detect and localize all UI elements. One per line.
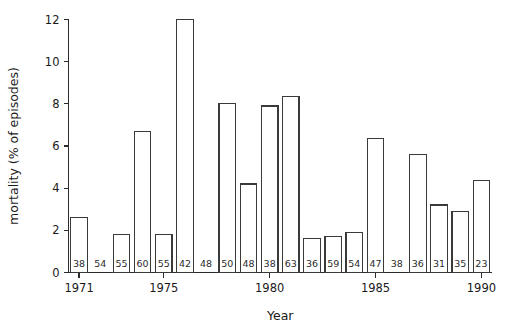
bar-count-label: 38	[73, 258, 85, 269]
bar-count-label: 54	[348, 258, 360, 269]
bar-count-label: 23	[475, 258, 487, 269]
bar-count-label: 48	[200, 258, 212, 269]
y-axis-title: mortality (% of episodes)	[6, 67, 21, 225]
bar	[177, 20, 194, 273]
chart-figure: 0246810121971197519801985199038545560554…	[0, 0, 513, 336]
x-axis-tick-label: 1975	[149, 281, 178, 295]
x-axis-title: Year	[266, 308, 294, 323]
bar	[261, 106, 278, 273]
x-axis-tick-label: 1971	[64, 281, 93, 295]
bar-count-label: 63	[285, 258, 297, 269]
bar-count-label: 36	[412, 258, 424, 269]
bar-count-label: 38	[264, 258, 276, 269]
bar	[367, 139, 384, 273]
bar-count-label: 54	[94, 258, 106, 269]
bar	[134, 131, 151, 272]
bar-chart-svg: 0246810121971197519801985199038545560554…	[0, 0, 513, 336]
bar-count-label: 35	[454, 258, 466, 269]
y-axis-tick-label: 4	[52, 181, 59, 195]
bar	[219, 104, 236, 273]
bar-count-label: 42	[179, 258, 191, 269]
bar	[283, 96, 300, 272]
bar-count-label: 36	[306, 258, 318, 269]
bar-count-label: 59	[327, 258, 339, 269]
x-axis-tick-label: 1980	[255, 281, 284, 295]
y-axis-tick-label: 10	[45, 55, 60, 69]
y-axis-tick-label: 8	[52, 97, 59, 111]
x-axis-tick-label: 1985	[361, 281, 390, 295]
bar-count-label: 48	[242, 258, 254, 269]
bar-count-label: 55	[158, 258, 170, 269]
y-axis-tick-label: 2	[52, 223, 59, 237]
bar-count-label: 60	[137, 258, 149, 269]
y-axis-tick-label: 0	[52, 266, 59, 280]
bar-count-label: 50	[221, 258, 233, 269]
bar	[410, 154, 427, 272]
bar-count-label: 55	[115, 258, 127, 269]
bar-count-label: 47	[369, 258, 381, 269]
bar-count-label: 31	[433, 258, 445, 269]
x-axis-tick-label: 1990	[467, 281, 496, 295]
y-axis-tick-label: 6	[52, 139, 59, 153]
y-axis-tick-label: 12	[45, 13, 60, 27]
bar-count-label: 38	[391, 258, 403, 269]
